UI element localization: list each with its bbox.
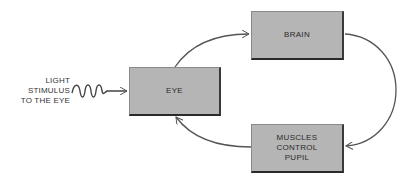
node-brain-label: BRAIN: [284, 30, 310, 40]
arrow-eye-to-brain: [175, 34, 249, 67]
node-brain: BRAIN: [251, 11, 344, 60]
light-stimulus-label: LIGHT STIMULUS TO THE EYE: [21, 76, 70, 106]
pupil-reflex-diagram: LIGHT STIMULUS TO THE EYE EYE BRAIN MUSC…: [0, 0, 419, 184]
node-eye-label: EYE: [166, 86, 183, 96]
node-muscles-control-pupil: MUSCLES CONTROL PUPIL: [251, 124, 344, 173]
arrow-brain-to-muscles: [345, 34, 396, 146]
light-wave-icon: [72, 85, 127, 97]
node-muscles-label: MUSCLES CONTROL PUPIL: [276, 133, 317, 163]
node-eye: EYE: [129, 67, 221, 116]
arrow-muscles-to-eye: [176, 117, 251, 147]
